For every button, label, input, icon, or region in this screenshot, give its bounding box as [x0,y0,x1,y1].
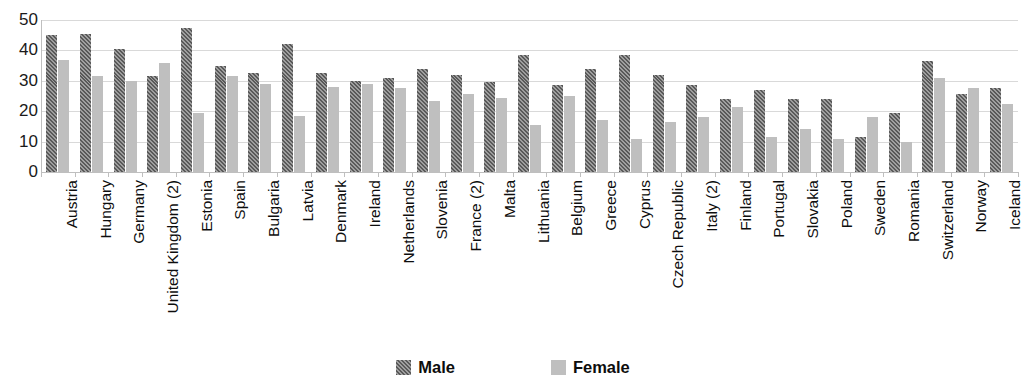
bar-male[interactable] [956,94,967,172]
bar-female[interactable] [92,76,103,172]
legend-label-male: Male [418,359,455,376]
bar-male[interactable] [990,88,1001,172]
bar-female[interactable] [463,94,474,172]
bar-female[interactable] [362,84,373,172]
bar-female[interactable] [766,137,777,172]
bar-male[interactable] [484,82,495,172]
x-axis-tick [1018,172,1019,177]
bar-male[interactable] [215,66,226,172]
x-axis-category-label: France (2) [468,180,484,252]
bar-male[interactable] [451,75,462,172]
x-axis-line [41,172,1018,173]
bar-female[interactable] [429,101,440,172]
x-axis-category-label: Austria [64,180,80,228]
category-label-text: Denmark [333,180,349,243]
bar-male[interactable] [585,69,596,172]
category-label-text: Spain [232,180,248,220]
bar-female[interactable] [901,142,912,172]
legend-item-female[interactable]: Female [551,359,630,376]
bar-group [850,20,884,172]
bar-female[interactable] [260,84,271,172]
bar-female[interactable] [496,98,507,172]
bar-male[interactable] [282,44,293,172]
bar-male[interactable] [417,69,428,172]
bar-female[interactable] [530,125,541,172]
category-label-text: Poland [839,180,855,228]
bar-female[interactable] [294,116,305,172]
y-axis-tick-label: 20 [6,102,38,119]
bar-male[interactable] [922,61,933,172]
bar-male[interactable] [383,78,394,172]
bar-male[interactable] [114,49,125,172]
bar-male[interactable] [316,73,327,172]
bar-male[interactable] [855,137,866,172]
category-label-text: Latvia [300,180,316,221]
bar-male[interactable] [720,99,731,172]
x-axis-tick [647,172,648,177]
bar-male[interactable] [788,99,799,172]
x-axis-category-label: Poland [839,180,855,228]
bar-male[interactable] [889,113,900,172]
category-label-text: Italy (2) [704,180,720,232]
x-axis-tick [850,172,851,177]
bar-female[interactable] [934,78,945,172]
bar-group [580,20,614,172]
y-axis-tick-labels: 01020304050 [0,0,38,384]
bar-female[interactable] [833,139,844,172]
x-axis-tick [580,172,581,177]
bar-male[interactable] [518,55,529,172]
category-label-text: Estonia [199,180,215,232]
x-axis-tick [917,172,918,177]
bar-female[interactable] [159,63,170,172]
bar-female[interactable] [800,129,811,172]
bar-female[interactable] [58,60,69,172]
x-axis-tick [984,172,985,177]
bar-male[interactable] [248,73,259,172]
x-axis-category-label: Germany [131,180,147,244]
x-axis-tick [41,172,42,177]
chart-legend: Male Female [0,355,1026,379]
bar-female[interactable] [126,81,137,172]
bar-female[interactable] [597,120,608,172]
category-label-text: Ireland [367,180,383,227]
bar-female[interactable] [665,122,676,172]
x-axis-category-label: Belgium [569,180,585,236]
bar-male[interactable] [46,35,57,172]
category-label-text: France (2) [468,180,484,252]
bar-female[interactable] [698,117,709,172]
bar-group [513,20,547,172]
y-axis-tick-label: 0 [6,163,38,180]
bar-female[interactable] [968,88,979,172]
bar-female[interactable] [732,107,743,172]
bar-male[interactable] [754,90,765,172]
bar-male[interactable] [653,75,664,172]
y-axis-tick-label: 10 [6,133,38,150]
bar-male[interactable] [821,99,832,172]
x-axis-category-label: Sweden [872,180,888,236]
x-axis-category-label: Finland [738,180,754,231]
bar-male[interactable] [147,76,158,172]
category-label-text: Romania [906,180,922,242]
bar-male[interactable] [80,34,91,172]
bar-female[interactable] [1002,104,1013,172]
bar-male[interactable] [350,81,361,172]
bar-female[interactable] [227,76,238,172]
bar-female[interactable] [564,96,575,172]
bar-male[interactable] [686,85,697,172]
bar-group [108,20,142,172]
bar-male[interactable] [552,85,563,172]
bar-female[interactable] [631,139,642,172]
x-axis-tick [243,172,244,177]
bar-female[interactable] [328,87,339,172]
bar-female[interactable] [867,117,878,172]
x-axis-tick [513,172,514,177]
bar-male[interactable] [181,28,192,172]
bar-group [984,20,1018,172]
bar-male[interactable] [619,55,630,172]
bar-female[interactable] [395,88,406,172]
category-label-text: Bulgaria [266,180,282,237]
bar-female[interactable] [193,113,204,172]
category-label-text: Portugal [771,180,787,238]
x-axis-tick [816,172,817,177]
legend-item-male[interactable]: Male [396,359,455,376]
